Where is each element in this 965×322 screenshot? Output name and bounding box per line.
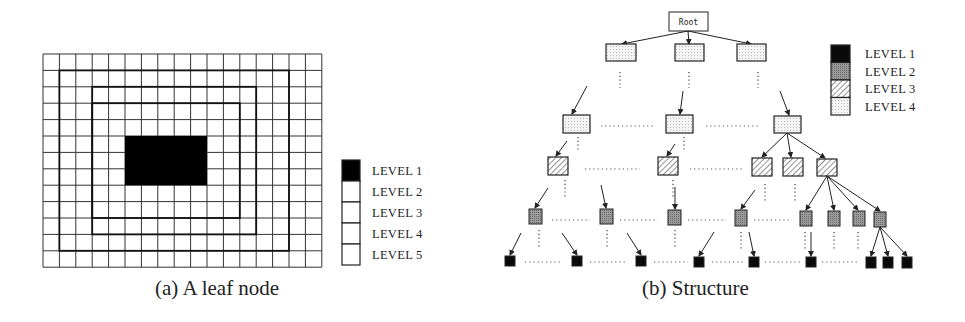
tree-node-level1 — [572, 256, 582, 266]
root-node: Root — [669, 12, 708, 31]
tree-node-level1 — [749, 257, 759, 267]
legend-label-level1: LEVEL 1 — [372, 164, 423, 178]
legend-label-level3: LEVEL 3 — [865, 82, 916, 96]
structure-panel: Root — [505, 12, 916, 268]
tree-node-level2 — [735, 210, 747, 226]
legend-label-level3: LEVEL 3 — [372, 206, 423, 220]
tree-node-level2 — [529, 209, 542, 224]
legend-swatch-level4 — [342, 223, 360, 244]
legend-swatch-level4 — [831, 98, 850, 116]
legend-swatch-level5 — [342, 244, 360, 265]
leaf-node-panel: LEVEL 1LEVEL 2LEVEL 3LEVEL 4LEVEL 5 — [43, 54, 423, 267]
tree-nodes — [505, 44, 912, 268]
tree-node-level3 — [548, 157, 568, 175]
tree-node-level1 — [902, 257, 912, 268]
legend-label-level2: LEVEL 2 — [865, 65, 916, 79]
tree-node-level5 — [737, 44, 766, 61]
tree-node-level4 — [563, 115, 590, 133]
tree-node-level2 — [600, 209, 613, 224]
tree-node-level1 — [636, 256, 646, 266]
figure: LEVEL 1LEVEL 2LEVEL 3LEVEL 4LEVEL 5 Root — [0, 0, 965, 322]
legend-swatch-level2 — [831, 63, 850, 81]
tree-node-level2 — [853, 211, 865, 226]
legend-swatch-level3 — [342, 202, 360, 223]
tree-node-level2 — [874, 212, 886, 227]
tree-node-level3 — [752, 158, 772, 176]
tree-node-level2 — [800, 211, 812, 226]
legend-swatch-level1 — [831, 45, 850, 63]
legend-swatch-level1 — [342, 160, 360, 181]
tree-node-level5 — [675, 44, 704, 61]
tree-node-level3 — [783, 158, 803, 176]
legend-swatch-level2 — [342, 181, 360, 202]
tree-node-level1 — [883, 257, 893, 268]
tree-node-level1 — [694, 257, 704, 267]
tree-node-level1 — [866, 257, 876, 268]
legend-label-level1: LEVEL 1 — [865, 47, 916, 61]
legend-leaf-node: LEVEL 1LEVEL 2LEVEL 3LEVEL 4LEVEL 5 — [342, 160, 423, 265]
tree-node-level3 — [658, 157, 678, 175]
legend-label-level2: LEVEL 2 — [372, 185, 423, 199]
tree-node-level4 — [666, 115, 693, 133]
level1-block — [125, 136, 207, 185]
root-label: Root — [679, 18, 698, 27]
tree-node-level2 — [828, 211, 840, 226]
legend-swatch-level3 — [831, 80, 850, 98]
tree-node-level5 — [606, 44, 636, 61]
caption-leaf-node: (a) A leaf node — [155, 276, 279, 301]
caption-structure: (b) Structure — [642, 276, 749, 301]
legend-label-level4: LEVEL 4 — [865, 100, 916, 114]
tree-node-level4 — [774, 116, 801, 133]
tree-node-level3 — [817, 159, 837, 176]
legend-label-level4: LEVEL 4 — [372, 227, 423, 241]
legend-structure: LEVEL 1LEVEL 2LEVEL 3LEVEL 4 — [831, 45, 916, 115]
tree-node-level2 — [668, 210, 681, 225]
legend-label-level5: LEVEL 5 — [372, 248, 423, 262]
tree-node-level1 — [806, 257, 816, 267]
tree-node-level1 — [505, 256, 515, 266]
